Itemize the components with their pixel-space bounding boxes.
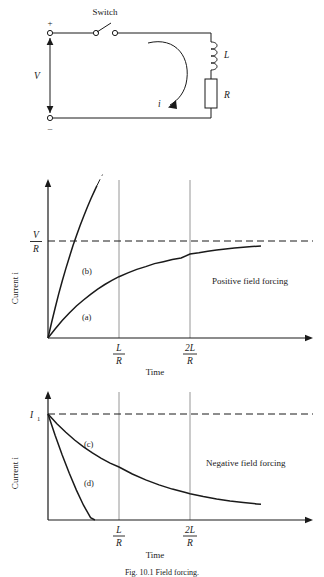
chart1-xaxis-title-layer: Time xyxy=(0,364,324,380)
initial-current-label-subscript: 1 xyxy=(37,415,40,422)
source-arrow-down xyxy=(47,106,54,113)
y-axis-arrow xyxy=(45,179,51,187)
chart-annotation-negative: Negative field forcing xyxy=(206,458,286,468)
chart-annotation-positive: Positive field forcing xyxy=(212,276,288,286)
current-label: i xyxy=(158,99,161,109)
resistor-body xyxy=(205,79,217,108)
curve-a-line xyxy=(48,246,261,338)
xtick-2lr-numerator-neg: 2L xyxy=(185,525,195,535)
curve-d-line xyxy=(48,414,95,520)
x-axis-arrow-neg xyxy=(305,517,313,523)
x-axis-arrow xyxy=(305,335,313,341)
xtick-lr-denominator-neg: R xyxy=(115,538,122,548)
xtick-2lr-denominator-neg: R xyxy=(186,538,193,548)
figure-root: Switch + – V L R i V R Current i xyxy=(0,0,324,577)
current-loop-arc xyxy=(148,42,187,105)
inductor-coil xyxy=(211,42,217,70)
curve-label-c: (c) xyxy=(84,439,94,449)
terminal-negative-node xyxy=(47,115,52,120)
xtick-2lr-numerator: 2L xyxy=(185,343,195,353)
source-arrow-up xyxy=(47,38,54,45)
inductor-label: L xyxy=(223,50,229,60)
curve-b-dashed-continuation xyxy=(97,175,103,186)
source-voltage-label: V xyxy=(34,71,41,81)
plus-sign-label: + xyxy=(47,18,52,28)
y-axis-title: Current i xyxy=(10,271,20,304)
y-axis-arrow-neg xyxy=(45,391,51,399)
x-axis-title-negative: Time xyxy=(146,550,165,560)
figure-caption: Fig. 10.1 Field forcing. xyxy=(125,568,199,577)
switch-blade xyxy=(97,23,111,32)
asymptote-label-denominator: R xyxy=(32,244,39,254)
asymptote-label-numerator: V xyxy=(33,230,40,240)
chart-positive-field-forcing: V R Current i L R 2L R (b) (a) Positive … xyxy=(0,168,324,368)
initial-current-label: I xyxy=(29,410,34,420)
chart-negative-field-forcing: I 1 Current i L R 2L R (c) (d) Negative … xyxy=(0,388,324,548)
switch-label: Switch xyxy=(92,7,118,17)
minus-sign-label: – xyxy=(47,123,53,133)
curve-label-b: (b) xyxy=(82,266,92,276)
y-axis-title-neg: Current i xyxy=(10,456,20,489)
terminal-positive-node xyxy=(47,30,52,35)
switch-contact-node xyxy=(112,30,117,35)
circuit-diagram: Switch + – V L R i xyxy=(0,0,324,160)
x-axis-title-positive: Time xyxy=(146,367,165,377)
xtick-lr-numerator: L xyxy=(115,343,121,353)
chart2-footer-layer: Time Fig. 10.1 Field forcing. xyxy=(0,548,324,577)
xtick-lr-numerator-neg: L xyxy=(115,525,121,535)
curve-label-a: (a) xyxy=(82,312,92,322)
current-arrow-head xyxy=(168,100,177,109)
resistor-label: R xyxy=(223,90,230,100)
curve-label-d: (d) xyxy=(84,478,94,488)
